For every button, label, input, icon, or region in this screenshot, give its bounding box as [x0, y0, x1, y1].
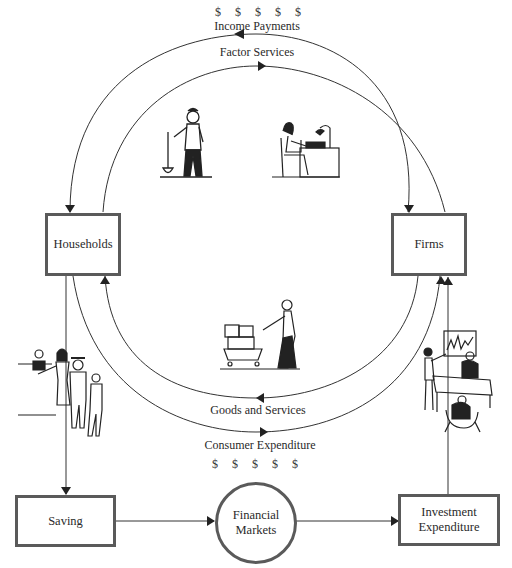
dollar-icon: $ [225, 457, 245, 472]
dollar-signs-top: $$$$$ [208, 5, 308, 20]
dollar-icon: $ [285, 457, 305, 472]
office-worker-at-desk-icon [272, 123, 340, 177]
dollar-icon: $ [228, 5, 248, 20]
dollar-icon: $ [205, 457, 225, 472]
investment-line1: Investment [421, 505, 477, 519]
dollar-icon: $ [288, 5, 308, 20]
financial-markets-circle: FinancialMarkets [215, 482, 297, 564]
markets-arrow-icon [207, 516, 215, 526]
firms-box: Firms [391, 213, 467, 276]
investment-expenditure-label: InvestmentExpenditure [418, 505, 479, 535]
goods-services-arrow-icon [256, 393, 264, 403]
bank-customers-icon [18, 349, 102, 436]
financial-markets-label: FinancialMarkets [233, 508, 280, 538]
saving-arrow-icon [61, 487, 71, 495]
shopper-with-cart-icon [220, 300, 300, 369]
households-box: Households [45, 213, 121, 276]
goods-arrow-at-households-icon [100, 276, 110, 284]
goods-and-services-label: Goods and Services [196, 403, 320, 418]
factor-arrow-at-firms-icon [404, 205, 414, 213]
goods-services-arc [105, 276, 418, 398]
firms-label: Firms [414, 237, 443, 252]
investment-firms-arrow-icon [443, 277, 453, 285]
dollar-icon: $ [208, 5, 228, 20]
investment-line2: Expenditure [418, 520, 479, 534]
worker-with-shovel-icon [160, 109, 212, 178]
factor-services-arc [103, 66, 445, 212]
dollar-icon: $ [248, 5, 268, 20]
income-payments-arc [70, 34, 409, 212]
dollar-signs-bottom: $$$$$ [205, 457, 305, 472]
households-label: Households [53, 237, 112, 252]
consumer-expenditure-label: Consumer Expenditure [190, 438, 330, 453]
financial-markets-line2: Markets [236, 523, 277, 537]
business-presentation-icon [424, 331, 492, 432]
factor-services-arrow-icon [258, 61, 266, 71]
income-payments-label: Income Payments [206, 19, 308, 34]
saving-label: Saving [48, 514, 83, 529]
consumer-expenditure-arrow-icon [260, 427, 268, 437]
dollar-icon: $ [245, 457, 265, 472]
factor-services-label: Factor Services [212, 45, 302, 60]
financial-markets-line1: Financial [233, 508, 280, 522]
dollar-icon: $ [265, 457, 285, 472]
income-arrow-at-households-icon [65, 205, 75, 213]
investment-expenditure-box: InvestmentExpenditure [398, 494, 500, 546]
dollar-icon: $ [268, 5, 288, 20]
saving-box: Saving [15, 495, 116, 547]
